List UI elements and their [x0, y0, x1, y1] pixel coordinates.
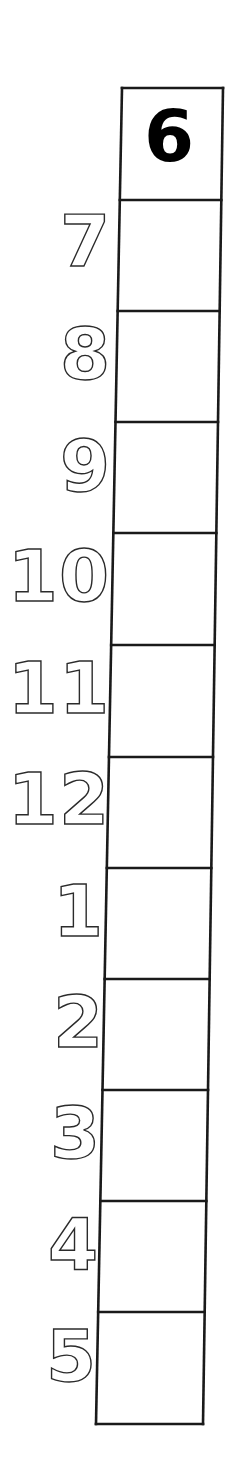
- grid-cell-empty[interactable]: [96, 1312, 205, 1424]
- grid-cell-empty[interactable]: [107, 757, 213, 868]
- grid-cell-empty[interactable]: [111, 533, 216, 645]
- trace-label-10: 10: [8, 540, 110, 612]
- grid-group: [96, 88, 223, 1424]
- grid-cell-empty[interactable]: [116, 311, 220, 422]
- grid-cell-empty[interactable]: [105, 868, 212, 979]
- trace-label-4: 4: [48, 1208, 98, 1280]
- grid-cell-empty[interactable]: [100, 1090, 208, 1201]
- grid-cell-empty[interactable]: [113, 422, 218, 533]
- trace-label-2: 2: [53, 986, 103, 1058]
- trace-label-5: 5: [46, 1320, 96, 1392]
- trace-label-8: 8: [60, 318, 110, 390]
- trace-label-7: 7: [60, 205, 110, 277]
- grid-cell-empty[interactable]: [109, 645, 215, 757]
- trace-label-9: 9: [60, 430, 110, 502]
- grid-cell-empty[interactable]: [118, 200, 222, 311]
- grid-cell-empty[interactable]: [98, 1201, 206, 1312]
- trace-label-11: 11: [8, 652, 110, 724]
- grid-cell-empty[interactable]: [103, 979, 210, 1090]
- trace-label-1: 1: [53, 875, 103, 947]
- worksheet-page: 6 78910111212345: [0, 0, 231, 1460]
- trace-label-3: 3: [50, 1097, 100, 1169]
- trace-label-12: 12: [8, 763, 110, 835]
- numeral-cell-column: [0, 0, 231, 1460]
- filled-numeral-6: 6: [144, 100, 193, 172]
